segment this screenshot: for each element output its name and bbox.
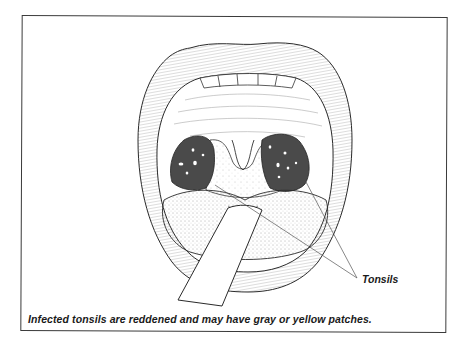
mouth-illustration (0, 0, 469, 354)
figure-caption: Infected tonsils are reddened and may ha… (28, 313, 448, 325)
tonsils-label: Tonsils (362, 273, 398, 285)
